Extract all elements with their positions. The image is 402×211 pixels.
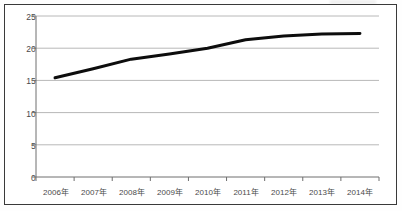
plot-area	[0, 0, 402, 211]
data-series-line	[55, 33, 360, 77]
y-tick-mark-group	[32, 16, 36, 177]
line-chart-figure: 25 20 15 10 5 0 2006年 2007年 2008年 2009年 …	[0, 0, 402, 211]
x-tick-mark-group	[36, 177, 379, 181]
